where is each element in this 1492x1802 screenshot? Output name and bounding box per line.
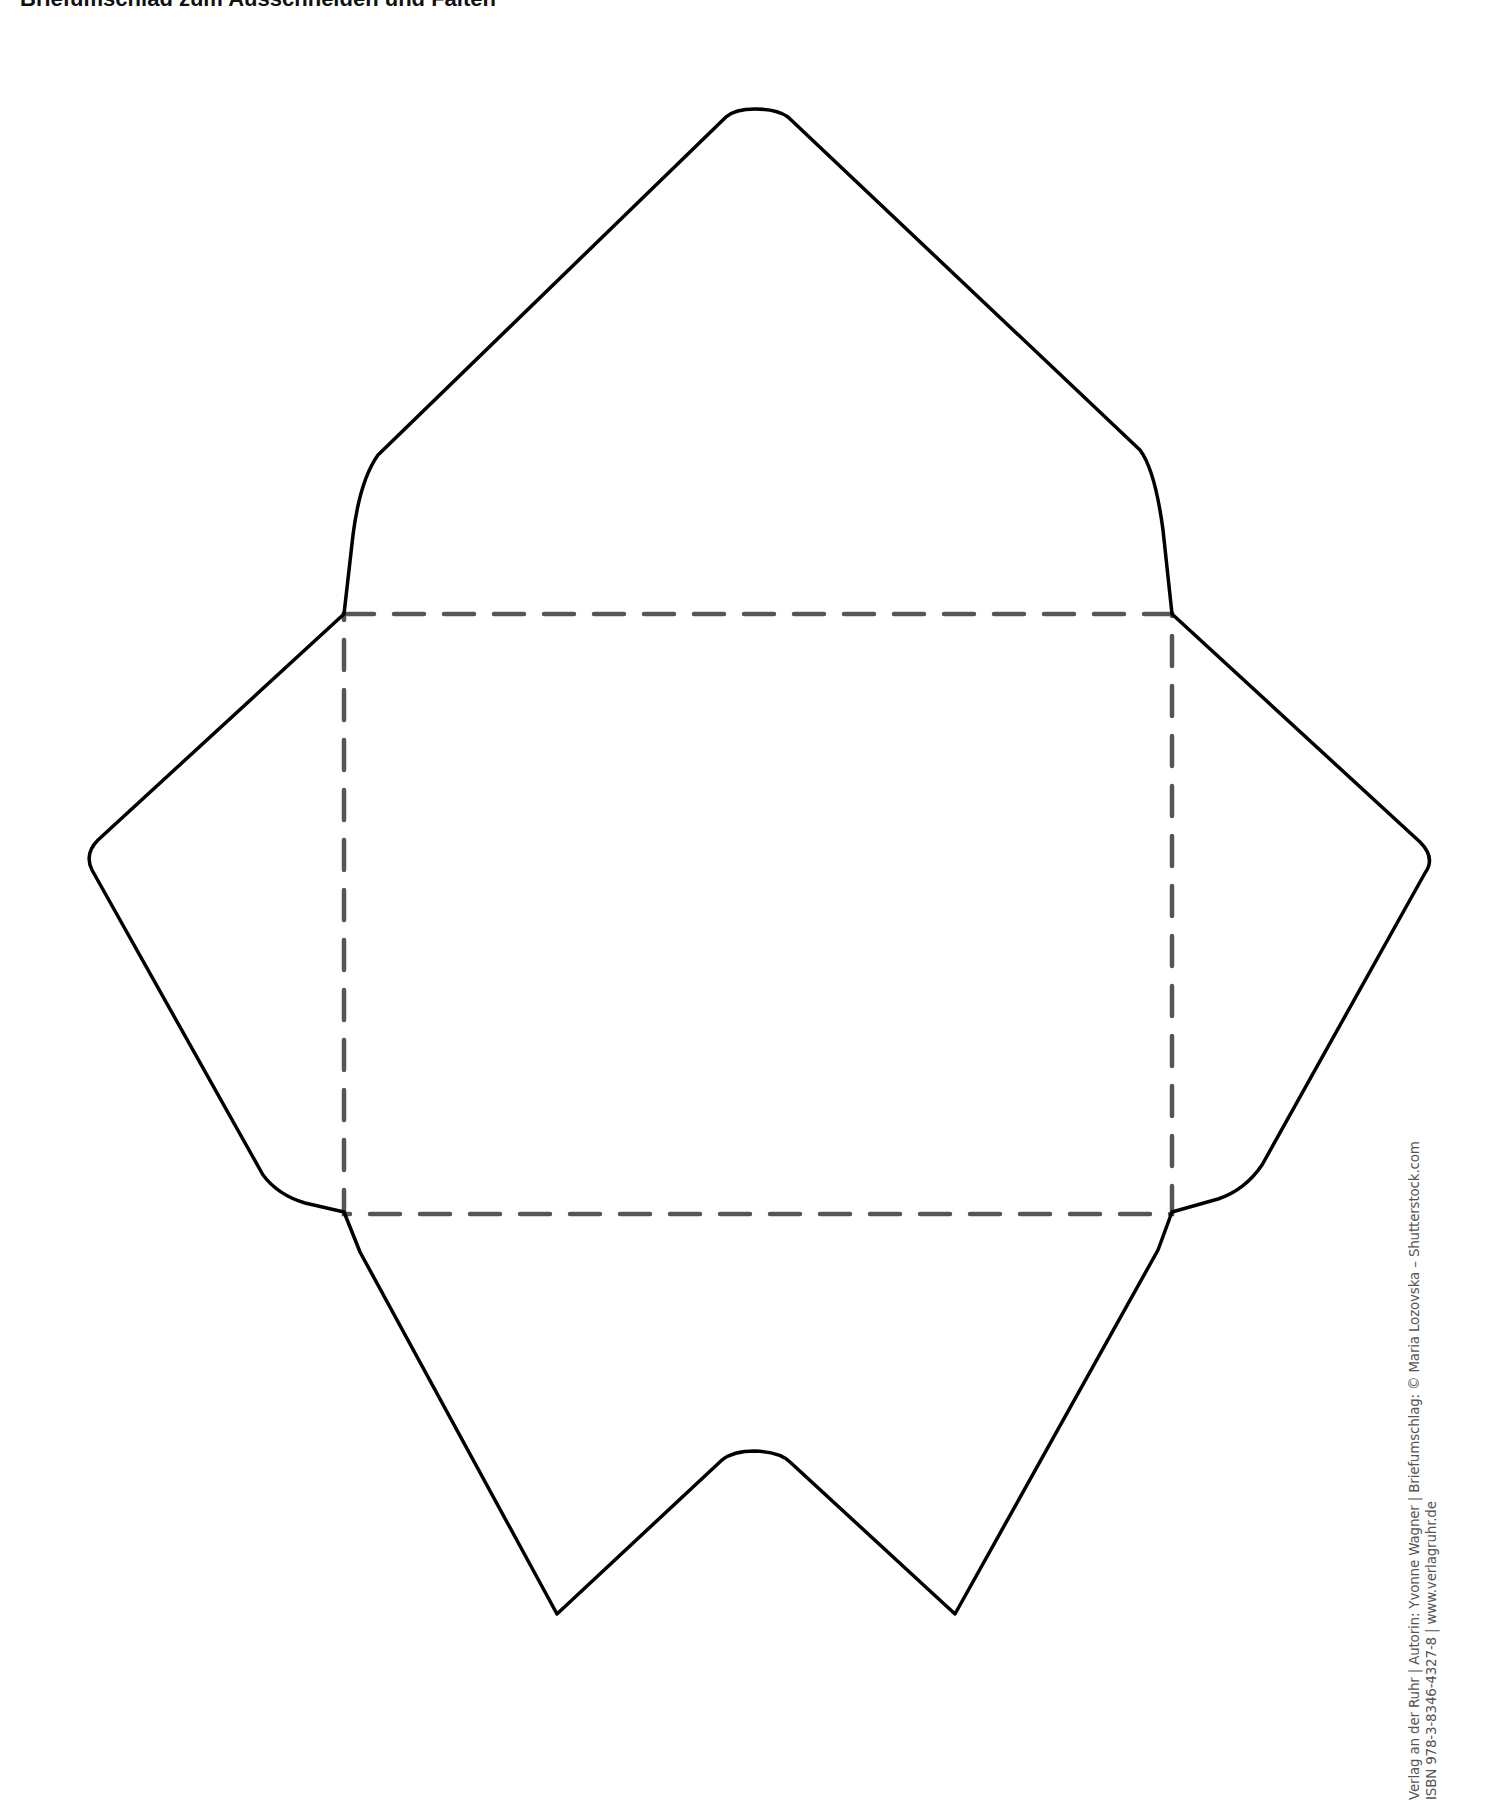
envelope-cut-outline — [89, 109, 1429, 1614]
copyright-credit: Verlag an der Ruhr | Autorin: Yvonne Wag… — [1406, 1141, 1440, 1800]
worksheet-page: Briefumschlag zum Ausschneiden und Falte… — [0, 0, 1492, 1802]
credit-line-2: ISBN 978-3-8346-4327-8 | www.verlagruhr.… — [1423, 1141, 1440, 1800]
fold-line-rectangle — [344, 614, 1172, 1214]
credit-line-1: Verlag an der Ruhr | Autorin: Yvonne Wag… — [1406, 1141, 1423, 1800]
envelope-template — [0, 0, 1492, 1802]
